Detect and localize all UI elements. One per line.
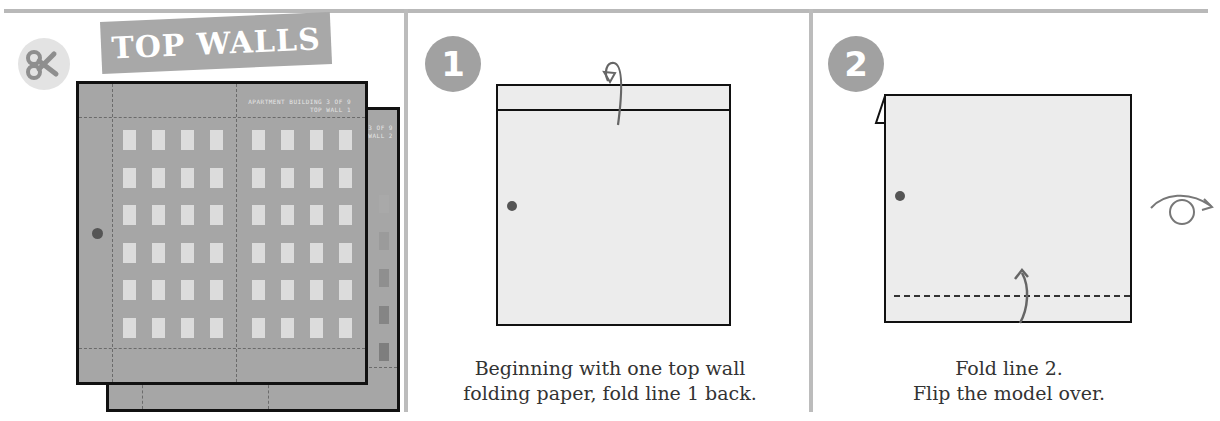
panel-divider-1 [404, 9, 408, 412]
window [281, 318, 294, 338]
window [310, 130, 323, 150]
back-sheet-label: 3 OF 9 WALL 2 [368, 124, 393, 140]
window [152, 318, 165, 338]
color-swatch [379, 343, 389, 361]
window [339, 205, 352, 225]
window [123, 205, 136, 225]
window [181, 130, 194, 150]
window [252, 205, 265, 225]
step-1-badge: 1 [425, 36, 481, 92]
window [210, 280, 223, 300]
step-number: 1 [441, 44, 465, 84]
fold-line-left [112, 84, 113, 382]
window [252, 130, 265, 150]
window [252, 168, 265, 188]
fold-line-2 [79, 348, 365, 349]
window [152, 205, 165, 225]
color-swatch [379, 306, 389, 324]
alignment-dot [507, 201, 517, 211]
fold-up-arrow-icon [1012, 265, 1042, 325]
window [339, 130, 352, 150]
window [252, 280, 265, 300]
window [210, 243, 223, 263]
window [310, 168, 323, 188]
window [310, 243, 323, 263]
window [339, 168, 352, 188]
window [152, 168, 165, 188]
window [123, 318, 136, 338]
window [252, 243, 265, 263]
alignment-dot [895, 191, 905, 201]
flip-over-icon [1149, 186, 1219, 226]
window [281, 280, 294, 300]
window [210, 205, 223, 225]
step-1-caption: Beginning with one top wall folding pape… [410, 356, 810, 406]
window [310, 318, 323, 338]
window [210, 130, 223, 150]
window [281, 205, 294, 225]
window [181, 318, 194, 338]
window [152, 280, 165, 300]
window [310, 280, 323, 300]
window [310, 205, 323, 225]
window [123, 168, 136, 188]
sheet-label: APARTMENT BUILDING 3 OF 9 TOP WALL 1 [248, 98, 351, 114]
front-folding-sheet: APARTMENT BUILDING 3 OF 9 TOP WALL 1 [76, 81, 368, 385]
scissors-icon [18, 38, 70, 90]
scissors-badge [18, 38, 70, 90]
window [181, 280, 194, 300]
window [210, 168, 223, 188]
alignment-dot [92, 228, 103, 239]
window [281, 243, 294, 263]
page-title: TOP WALLS [111, 21, 322, 65]
window [152, 243, 165, 263]
window [210, 318, 223, 338]
window [339, 280, 352, 300]
color-swatch [379, 195, 389, 213]
fold-line-1 [79, 117, 365, 118]
step-2-paper [884, 94, 1132, 323]
window [152, 130, 165, 150]
window [123, 130, 136, 150]
window [123, 280, 136, 300]
window [252, 318, 265, 338]
window [281, 168, 294, 188]
window [181, 243, 194, 263]
fold-back-arrow-icon [600, 55, 640, 125]
step-number: 2 [844, 44, 868, 84]
window [281, 130, 294, 150]
color-swatch [379, 269, 389, 287]
step-2-badge: 2 [828, 36, 884, 92]
step-2-caption: Fold line 2. Flip the model over. [810, 356, 1208, 406]
window [181, 168, 194, 188]
fold-line-center [236, 84, 237, 382]
window [339, 318, 352, 338]
color-swatch [379, 232, 389, 250]
window [181, 205, 194, 225]
window [123, 243, 136, 263]
window [339, 243, 352, 263]
title-banner: TOP WALLS [100, 12, 332, 74]
panel-divider-2 [809, 9, 813, 412]
